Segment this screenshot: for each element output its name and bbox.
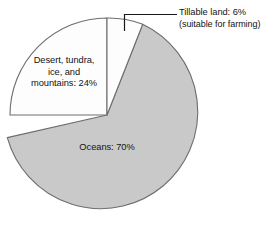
pie-chart-figure: Tillable land: 6% (suitable for farming)… xyxy=(0,0,272,231)
desert-slice-label-line2: ice, and xyxy=(12,67,116,79)
pie-chart-graphic xyxy=(0,0,272,231)
desert-slice-label-line1: Desert, tundra, xyxy=(12,55,116,67)
oceans-slice-label: Oceans: 70% xyxy=(57,142,157,154)
tillable-callout-label: Tillable land: 6% (suitable for farming) xyxy=(179,7,260,30)
tillable-callout-line1: Tillable land: 6% xyxy=(179,7,260,19)
tillable-callout-line2: (suitable for farming) xyxy=(179,19,260,31)
desert-slice-label-line3: mountains: 24% xyxy=(12,78,116,90)
desert-slice-label: Desert, tundra, ice, and mountains: 24% xyxy=(12,55,116,90)
